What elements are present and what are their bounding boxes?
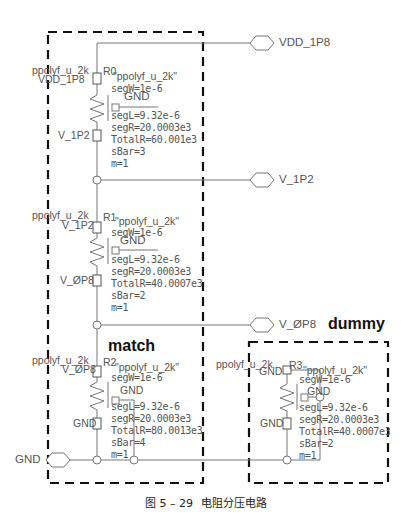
pin-v0p8-icon: [250, 318, 274, 332]
pin-v1p2-icon: [250, 173, 274, 187]
node-gnd-1: [93, 456, 101, 464]
r1-bottom-net: V_ØP8: [60, 275, 94, 286]
pin-label-vdd: VDD_1P8: [279, 36, 330, 48]
r0-param-segw: segW=1e-6: [111, 83, 163, 95]
pin-vdd-icon: [250, 36, 274, 50]
r2-bottom-net: GND: [73, 418, 96, 429]
r3-bottom-net: GND: [260, 418, 283, 429]
r1-param-segr: segR=20.0003e3: [111, 266, 191, 278]
group-label-match: match: [108, 337, 155, 355]
resistor-r0-symbol: [90, 95, 104, 122]
pin-label-v0p8: V_ØP8: [279, 318, 316, 330]
r3-param-m: m=1: [299, 450, 316, 462]
group-label-dummy: dummy: [328, 315, 385, 333]
node-gnd-2: [130, 456, 138, 464]
figure-title: 电阻分压电路: [201, 494, 267, 510]
r3-param-segl: segL=9.32e-6: [299, 402, 368, 414]
r0-top-net: VDD_1P8: [38, 74, 85, 85]
resistor-r2-symbol: [90, 382, 104, 410]
r1-param-segl: segL=9.32e-6: [111, 254, 180, 266]
r3-param-totalr: TotalR=40.0007e3: [299, 426, 391, 438]
r1-model: "ppolyf_u_2k": [115, 216, 179, 227]
r2-body-net: GND: [120, 385, 143, 396]
resistor-r3-symbol: [280, 384, 294, 411]
r1-top-net: V_1P2: [62, 220, 94, 231]
r2-param-segl: segL=9.32e-6: [111, 401, 180, 413]
node-v1p2: [93, 176, 101, 184]
r3-param-segr: segR=20.0003e3: [299, 414, 379, 426]
r0-bottom-net: V_1P2: [58, 130, 90, 141]
r2-param-m: m=1: [111, 449, 128, 461]
r2-param-totalr: TotalR=80.0013e3: [111, 425, 203, 437]
pin-gnd-icon: [46, 453, 70, 467]
r1-param-sbar: sBar=2: [111, 290, 145, 302]
r1-param-m: m=1: [111, 302, 128, 314]
r2-param-segw: segW=1e-6: [111, 372, 163, 384]
resistor-r1-symbol: [90, 238, 104, 266]
r3-body-net: GND: [307, 386, 330, 397]
r3-param-segw: segW=1e-6: [299, 374, 351, 386]
node-gnd-3: [283, 456, 291, 464]
r3-instance: R3: [289, 360, 302, 371]
r0-param-segl: segL=9.32e-6: [111, 110, 180, 122]
r2-top-net: V_ØP8: [62, 364, 96, 375]
r3-top-net: GND: [259, 366, 282, 377]
r0-param-m: m=1: [111, 158, 128, 170]
pin-label-gnd: GND: [15, 453, 41, 465]
r0-param-sbar: sBar=3: [111, 146, 145, 158]
r0-model: "ppolyf_u_2k": [113, 71, 177, 82]
r1-param-totalr: TotalR=40.0007e3: [111, 278, 203, 290]
r0-param-segr: segR=20.0003e3: [111, 122, 191, 134]
r3-param-sbar: sBar=2: [299, 438, 333, 450]
r2-param-sbar: sBar=4: [111, 437, 145, 449]
r0-param-totalr: TotalR=60.001e3: [111, 134, 197, 146]
node-v0p8: [93, 321, 101, 329]
r2-param-segr: segR=20.0003e3: [111, 413, 191, 425]
r1-param-segw: segW=1e-6: [111, 227, 163, 239]
figure-number: 图 5 – 29: [145, 494, 193, 510]
pin-label-v1p2: V_1P2: [279, 173, 314, 185]
